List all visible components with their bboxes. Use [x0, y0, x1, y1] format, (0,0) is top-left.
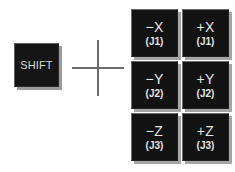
axis-key-minus-z[interactable]: −Z (J3): [131, 113, 178, 161]
axis-key-joint-label: (J3): [146, 141, 164, 151]
axis-key-axis-label: −Z: [146, 124, 163, 138]
axis-keypad: −X (J1) +X (J1) −Y (J2) +Y (J2) −Z (J3) …: [131, 9, 229, 164]
axis-key-joint-label: (J1): [197, 37, 215, 47]
diagram-canvas: SHIFT −X (J1) +X (J1) −Y (J2) +Y (J2) −Z…: [0, 0, 235, 172]
plus-sign-icon: [72, 40, 124, 96]
axis-key-joint-label: (J2): [146, 89, 164, 99]
axis-key-joint-label: (J3): [197, 141, 215, 151]
axis-key-minus-x[interactable]: −X (J1): [131, 9, 178, 57]
axis-key-minus-y[interactable]: −Y (J2): [131, 61, 178, 109]
axis-key-axis-label: +Z: [197, 124, 214, 138]
axis-key-joint-label: (J2): [197, 89, 215, 99]
axis-key-joint-label: (J1): [146, 37, 164, 47]
shift-key-label: SHIFT: [20, 60, 52, 71]
axis-key-axis-label: +Y: [196, 72, 214, 86]
shift-key[interactable]: SHIFT: [14, 43, 59, 87]
axis-key-plus-z[interactable]: +Z (J3): [182, 113, 229, 161]
axis-key-plus-x[interactable]: +X (J1): [182, 9, 229, 57]
plus-sign-vertical-bar: [97, 40, 99, 96]
axis-key-axis-label: +X: [196, 20, 214, 34]
axis-key-axis-label: −Y: [145, 72, 163, 86]
axis-key-plus-y[interactable]: +Y (J2): [182, 61, 229, 109]
axis-key-axis-label: −X: [145, 20, 163, 34]
